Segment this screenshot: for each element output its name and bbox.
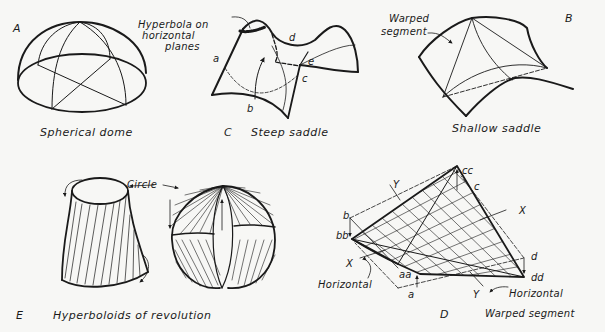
panel-letter-d: D bbox=[440, 309, 448, 320]
annotation-warped-line1: Warped bbox=[389, 14, 429, 24]
caption-shallow-saddle: Shallow saddle bbox=[452, 123, 541, 134]
point-label-cc: cc bbox=[462, 166, 473, 176]
point-label-dd: dd bbox=[531, 273, 544, 283]
point-label-d: d bbox=[289, 33, 295, 43]
point-label-e: e bbox=[308, 57, 314, 67]
point-label-aa: aa bbox=[399, 270, 411, 280]
spherical-dome-figure bbox=[18, 22, 146, 112]
point-label-a-d: a bbox=[408, 290, 414, 300]
point-label-b: b bbox=[247, 104, 253, 114]
annotation-hyperbola-line3: planes bbox=[165, 42, 200, 52]
axis-label-x-right: X bbox=[519, 206, 526, 216]
steep-saddle-figure bbox=[212, 17, 358, 118]
diagram-canvas bbox=[0, 0, 605, 332]
panel-letter-a: A bbox=[13, 23, 21, 34]
annotation-hyperbola-line1: Hyperbola on bbox=[138, 20, 209, 30]
caption-hyperboloids: Hyperboloids of revolution bbox=[53, 310, 212, 321]
panel-letter-e: E bbox=[16, 310, 23, 321]
shallow-saddle-figure bbox=[419, 17, 573, 116]
caption-warped-segment: Warped segment bbox=[485, 309, 575, 319]
annotation-hyperbola-line2: horizontal bbox=[142, 31, 195, 41]
caption-spherical-dome: Spherical dome bbox=[40, 127, 133, 138]
panel-letter-c: C bbox=[224, 127, 232, 138]
point-label-c: c bbox=[302, 74, 308, 84]
annotation-horizontal-left: Horizontal bbox=[318, 280, 372, 290]
hyperboloid-double-figure bbox=[163, 185, 275, 288]
axis-label-x-left: X bbox=[346, 259, 353, 269]
warped-segment-figure bbox=[330, 145, 565, 292]
axis-label-y-top: Y bbox=[393, 180, 399, 190]
hyperboloid-cylinder-figure bbox=[62, 178, 154, 287]
point-label-bb: bb bbox=[336, 231, 349, 241]
point-label-b-d: b bbox=[343, 211, 349, 221]
point-label-c-d: c bbox=[474, 182, 480, 192]
annotation-circle: Circle bbox=[127, 180, 157, 190]
annotation-warped-line2: segment bbox=[381, 27, 427, 37]
caption-steep-saddle: Steep saddle bbox=[251, 127, 329, 138]
point-label-a: a bbox=[213, 54, 219, 64]
point-label-d-d: d bbox=[531, 252, 537, 262]
axis-label-y-bottom: Y bbox=[473, 290, 479, 300]
panel-letter-b: B bbox=[565, 13, 573, 24]
annotation-horizontal-right: Horizontal bbox=[509, 289, 563, 299]
